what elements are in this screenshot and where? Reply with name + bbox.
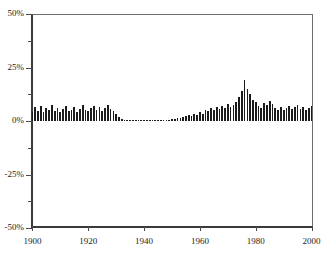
bar — [219, 109, 221, 121]
x-axis-tick-label: 1980 — [236, 236, 276, 246]
bar — [302, 107, 304, 121]
bar — [266, 105, 268, 121]
bar — [291, 109, 293, 121]
bar — [135, 120, 137, 121]
bar — [216, 107, 218, 121]
bar — [230, 107, 232, 121]
bar — [129, 120, 131, 121]
bar — [110, 109, 112, 121]
bar — [277, 110, 279, 121]
x-axis-tick — [32, 226, 33, 231]
bar — [260, 108, 262, 121]
bar — [174, 119, 176, 121]
bar — [227, 104, 229, 121]
bar — [107, 105, 109, 121]
bar — [140, 120, 142, 121]
bar — [121, 119, 123, 121]
x-axis-tick — [144, 226, 145, 231]
bar — [177, 118, 179, 121]
bar — [185, 116, 187, 121]
bar — [85, 110, 87, 121]
bar — [54, 111, 56, 121]
bar — [308, 108, 310, 121]
bar — [207, 111, 209, 121]
y-axis-tick-label: -25% — [5, 170, 25, 179]
x-axis-tick — [88, 226, 89, 231]
x-axis-tick-label: 1960 — [180, 236, 220, 246]
bar — [113, 111, 115, 121]
bar — [280, 107, 282, 121]
bar — [235, 102, 237, 121]
bar — [93, 106, 95, 121]
bar — [90, 108, 92, 121]
bar — [224, 108, 226, 121]
x-axis-tick — [200, 226, 201, 231]
bar — [73, 107, 75, 121]
bar — [163, 120, 165, 121]
bar — [171, 119, 173, 121]
bar — [87, 111, 89, 121]
bar — [34, 107, 36, 121]
bar — [202, 114, 204, 121]
bar — [37, 111, 39, 121]
bar — [283, 110, 285, 121]
bar — [300, 109, 302, 121]
bar — [221, 106, 223, 121]
bar — [288, 106, 290, 121]
x-axis-tick — [312, 226, 313, 231]
bar — [305, 110, 307, 121]
bar — [205, 110, 207, 121]
bar — [115, 114, 117, 121]
bar — [157, 120, 159, 121]
bar — [274, 108, 276, 121]
bar — [263, 103, 265, 121]
bar — [57, 108, 59, 121]
bar — [51, 105, 53, 121]
bar — [210, 108, 212, 121]
bar — [126, 120, 128, 121]
bar — [99, 107, 101, 121]
bar — [244, 80, 246, 121]
bar — [180, 118, 182, 121]
bar — [124, 120, 126, 121]
x-axis-tick-label: 2000 — [292, 236, 332, 246]
bar — [143, 120, 145, 121]
bar — [43, 112, 45, 121]
bar-series — [31, 14, 313, 228]
y-axis-tick-minor — [28, 148, 32, 149]
bar — [238, 97, 240, 121]
bar — [311, 106, 313, 121]
bar — [196, 115, 198, 121]
bar — [104, 108, 106, 121]
bar — [45, 108, 47, 121]
bar — [62, 109, 64, 121]
bar — [199, 112, 201, 121]
bar — [249, 94, 251, 121]
y-axis-tick-minor — [28, 94, 32, 95]
y-axis-tick-minor — [28, 201, 32, 202]
bar — [149, 120, 151, 121]
x-axis-tick-label: 1940 — [124, 236, 164, 246]
bar — [286, 108, 288, 121]
bar — [241, 91, 243, 121]
bar — [138, 120, 140, 121]
bar — [79, 109, 81, 121]
bar — [146, 120, 148, 121]
bar — [71, 110, 73, 121]
chart-page: 50%25%0%-25%-50% 19001920194019601980200… — [0, 0, 334, 258]
bar — [193, 114, 195, 121]
bar — [272, 104, 274, 121]
y-axis-tick-major — [26, 68, 32, 69]
bar — [294, 107, 296, 121]
y-axis-tick-label: 0% — [12, 116, 24, 125]
bar — [168, 120, 170, 121]
bar — [166, 120, 168, 121]
bar — [160, 120, 162, 121]
bar — [154, 120, 156, 121]
bar — [269, 101, 271, 121]
bar — [82, 105, 84, 121]
bar — [32, 112, 34, 121]
bar — [132, 120, 134, 121]
bar — [40, 106, 42, 121]
bar — [96, 110, 98, 121]
